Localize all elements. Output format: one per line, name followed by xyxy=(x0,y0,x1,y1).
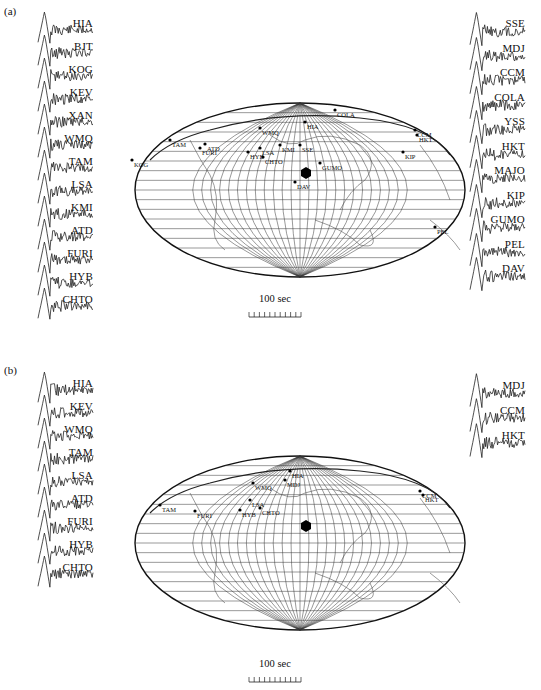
scale-ticks xyxy=(247,310,303,318)
panel-a-world-map: KOGTAMFURIHYBLSACHTOWMQKMISSEGUMODAVKIPC… xyxy=(130,100,470,280)
trace-label: TAM xyxy=(69,446,93,458)
panel-b-right-traces: MDJCCMHKT xyxy=(470,0,540,690)
station-label: GUMO xyxy=(322,164,342,171)
station-label: HIA xyxy=(292,472,304,479)
caption-cutoff xyxy=(0,684,541,690)
station-label: TAM xyxy=(172,141,186,148)
station-label: MDJ xyxy=(287,481,300,488)
trace-label: LSA xyxy=(72,469,93,481)
trace-label: CCM xyxy=(500,404,525,416)
station-label: HKT xyxy=(419,136,432,143)
station-label: COLA xyxy=(337,111,355,118)
trace-label: WMQ xyxy=(64,423,93,435)
panel-b-left-traces: HIAKEVWMQTAMLSAATDFURIHYBCHTO xyxy=(38,0,133,690)
station-label: FURI xyxy=(197,512,212,519)
station-label: LSA xyxy=(262,149,275,156)
station-label: HYB xyxy=(242,511,256,518)
panel-a-label: (a) xyxy=(4,5,16,17)
panel-a-scale-label: 100 sec xyxy=(245,293,305,304)
trace-label: MDJ xyxy=(502,379,525,391)
station-label: DAV xyxy=(297,183,311,190)
trace-label: HIA xyxy=(73,377,93,389)
station-label: WMQ xyxy=(262,129,279,136)
station-label: KOG xyxy=(134,161,148,168)
station-label: KIP xyxy=(405,153,416,160)
station-label: WMQ xyxy=(255,484,272,491)
panel-b-scale-bar: 100 sec xyxy=(245,658,305,687)
trace-label: FURI xyxy=(67,515,93,527)
trace-label: HKT xyxy=(502,429,525,441)
station-label: KMI xyxy=(282,146,295,153)
waveform-trace-hkt: HKT xyxy=(470,416,525,461)
station-label: HIA xyxy=(307,123,319,130)
station-label: HKT xyxy=(425,496,438,503)
station-label: ATD xyxy=(207,145,220,152)
trace-label: KEV xyxy=(70,400,93,412)
panel-b-label: (b) xyxy=(4,364,17,376)
trace-label: ATD xyxy=(71,492,93,504)
station-label: TAM xyxy=(162,506,176,513)
trace-label: HYB xyxy=(69,538,93,550)
station-label: LSA xyxy=(252,501,265,508)
panel-a-scale-bar: 100 sec xyxy=(245,293,305,322)
station-label: CHTO xyxy=(262,509,280,516)
trace-label: CHTO xyxy=(62,561,93,573)
scale-ticks xyxy=(247,675,303,683)
waveform-trace-chto: CHTO xyxy=(38,549,93,590)
station-label: CHTO xyxy=(265,158,283,165)
panel-b-world-map: TAMFURIHYBLSACHTOWMQMDJCCMHKTHIA xyxy=(130,453,470,633)
panel-b-scale-label: 100 sec xyxy=(245,658,305,669)
station-label: PEL xyxy=(437,228,449,235)
station-label: SSE xyxy=(302,146,313,153)
